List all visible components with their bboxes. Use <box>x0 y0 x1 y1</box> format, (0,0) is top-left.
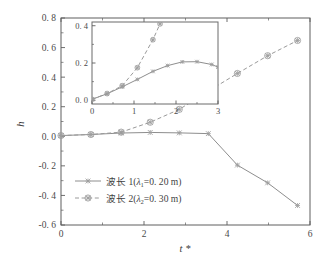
inset-y-tick-label: 0. 2 <box>75 58 88 68</box>
legend-label-1: 波长 1(λ1=0. 20 m) <box>106 176 182 188</box>
y-tick-label: -0. 4 <box>39 191 57 201</box>
y-tick-label: 0. 4 <box>42 73 57 83</box>
y-axis-label: h <box>15 121 26 126</box>
legend-label-tail: =0. 20 m) <box>144 176 182 188</box>
y-tick-label: 0. 8 <box>42 13 57 23</box>
x-tick-label: 0 <box>59 229 64 239</box>
legend-label-tail: =0. 30 m) <box>144 193 182 205</box>
inset-x-tick-label: 0 <box>90 106 94 116</box>
y-tick-label: -0. 2 <box>39 161 57 171</box>
x-tick-label: 2 <box>142 229 147 239</box>
x-tick-label: 4 <box>225 229 230 239</box>
inset-y-tick-label: 0. 0 <box>75 95 88 105</box>
y-tick-label: 0. 6 <box>42 43 57 53</box>
inset-y-tick-label: 0. 4 <box>75 21 89 31</box>
chart-figure: 02460. 80. 60. 40. 20. 0-0. 2-0. 4-0. 6 … <box>0 0 330 265</box>
inset-x-tick-label: 2 <box>174 106 178 116</box>
y-tick-label: -0. 6 <box>39 220 57 230</box>
inset-x-tick-label: 3 <box>216 106 220 116</box>
inset-plot: 01230. 40. 20. 0 <box>75 21 220 116</box>
x-axis-label: t * <box>180 243 192 254</box>
legend-label-main: 波长 1( <box>106 176 136 188</box>
x-tick-label: 6 <box>308 229 313 239</box>
chart-canvas: 02460. 80. 60. 40. 20. 0-0. 2-0. 4-0. 6 … <box>0 0 330 265</box>
inset-x-tick-label: 1 <box>132 106 136 116</box>
y-tick-label: 0. 2 <box>42 102 57 112</box>
legend-label-main: 波长 2( <box>106 193 136 205</box>
y-tick-label: 0. 0 <box>42 132 57 142</box>
legend-label-2: 波长 2(λ2=0. 30 m) <box>106 193 182 205</box>
